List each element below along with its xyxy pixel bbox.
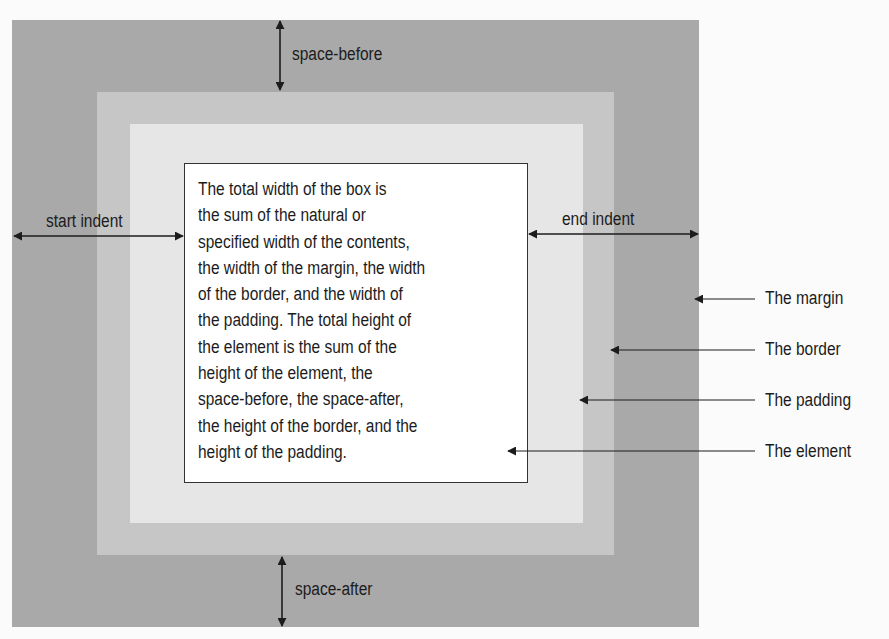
arrows-layer: [0, 0, 889, 639]
callout-border-label: The border: [765, 339, 841, 359]
space-before-label: space-before: [292, 44, 382, 64]
start-indent-label: start indent: [46, 211, 123, 231]
space-after-label: space-after: [295, 579, 372, 599]
end-indent-label: end indent: [562, 209, 634, 229]
callout-margin-label: The margin: [765, 288, 843, 308]
callout-element-label: The element: [765, 441, 851, 461]
callout-padding-label: The padding: [765, 390, 851, 410]
